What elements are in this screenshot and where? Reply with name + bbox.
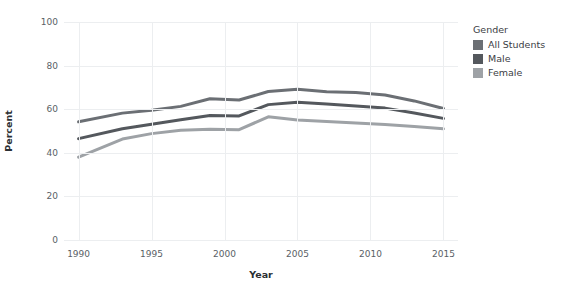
legend-swatch-icon	[473, 68, 483, 78]
gridline-vertical	[370, 22, 371, 240]
gridline-horizontal	[64, 66, 458, 67]
x-axis-tick-label: 2005	[267, 250, 327, 259]
legend-item-label: Male	[488, 53, 511, 64]
y-axis-tick-labels: 020406080100	[14, 22, 58, 240]
y-axis-tick-label: 20	[18, 192, 58, 201]
legend-title: Gender	[473, 24, 565, 35]
gridline-vertical	[79, 22, 80, 240]
y-axis-title: Percent	[3, 110, 14, 151]
x-axis-tick-label: 1995	[122, 250, 182, 259]
y-axis-tick-label: 0	[18, 236, 58, 245]
gridline-horizontal	[64, 196, 458, 197]
y-axis-tick-label: 80	[18, 61, 58, 70]
series-line	[79, 117, 444, 157]
legend-swatch-icon	[473, 54, 483, 64]
legend-item-label: All Students	[488, 39, 545, 50]
y-axis-tick-label: 40	[18, 148, 58, 157]
gridline-horizontal	[64, 109, 458, 110]
gridline-horizontal	[64, 240, 458, 241]
x-axis-tick-label: 2000	[195, 250, 255, 259]
gridline-horizontal	[64, 153, 458, 154]
gridline-horizontal	[64, 22, 458, 23]
x-axis-tick-labels: 199019952000200520102015	[64, 250, 458, 264]
line-series-group	[64, 22, 458, 240]
gridline-vertical	[297, 22, 298, 240]
legend-item[interactable]: Female	[473, 67, 565, 78]
y-axis-tick-label: 60	[18, 105, 58, 114]
gridline-vertical	[443, 22, 444, 240]
x-axis-tick-label: 1990	[49, 250, 109, 259]
legend-item[interactable]: Male	[473, 53, 565, 64]
x-axis-tick-label: 2010	[340, 250, 400, 259]
legend-item[interactable]: All Students	[473, 39, 565, 50]
legend-item-label: Female	[488, 67, 522, 78]
legend-swatch-icon	[473, 40, 483, 50]
chart-container: 020406080100 199019952000200520102015 Ye…	[0, 0, 569, 294]
x-axis-title: Year	[64, 269, 458, 280]
x-axis-tick-label: 2015	[413, 250, 473, 259]
legend: Gender All StudentsMaleFemale	[473, 24, 565, 81]
y-axis-tick-label: 100	[18, 18, 58, 27]
legend-items: All StudentsMaleFemale	[473, 39, 565, 78]
gridline-vertical	[225, 22, 226, 240]
plot-area	[64, 22, 458, 240]
gridline-vertical	[152, 22, 153, 240]
series-line	[79, 89, 444, 121]
